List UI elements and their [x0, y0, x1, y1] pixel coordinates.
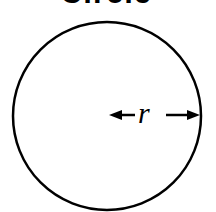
radius-label: r: [138, 96, 150, 129]
circle-diagram: r: [0, 0, 216, 212]
radius-right-arrow: [166, 110, 200, 120]
radius-left-arrow: [109, 110, 135, 120]
